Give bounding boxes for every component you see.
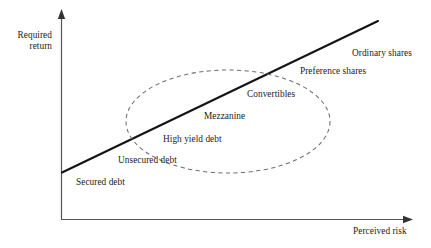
annotation-secured-debt: Secured debt: [76, 177, 125, 188]
annotation-unsecured-debt: Unsecured debt: [118, 155, 177, 166]
diagram-canvas: [0, 0, 431, 248]
x-axis-label: Perceived risk: [353, 226, 407, 237]
risk-return-diagram: Required return Perceived risk Ordinary …: [0, 0, 431, 248]
annotation-convertibles: Convertibles: [247, 89, 295, 100]
risk-return-line: [62, 21, 378, 173]
y-axis-arrow-icon: [58, 9, 65, 19]
annotation-preference-shares: Preference shares: [300, 66, 366, 77]
annotation-ordinary-shares: Ordinary shares: [352, 48, 412, 59]
annotation-high-yield-debt: High yield debt: [163, 134, 222, 145]
y-axis-label: Required return: [6, 30, 52, 53]
x-axis-arrow-icon: [403, 216, 413, 223]
annotation-mezzanine: Mezzanine: [204, 111, 245, 122]
